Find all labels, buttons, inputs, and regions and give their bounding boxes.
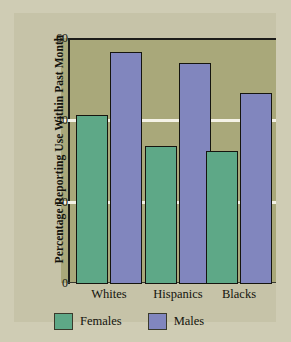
bar-whites-males xyxy=(110,52,142,284)
plot-frame-left xyxy=(68,38,70,284)
plot-frame-top xyxy=(68,38,276,40)
x-axis-label-blacks: Blacks xyxy=(206,287,272,302)
legend-entry-females: Females xyxy=(54,313,122,330)
legend-swatch-males-icon xyxy=(148,313,167,330)
chart-legend: Females Males xyxy=(54,313,220,330)
chart-page: 60 40 20 0 Percentage Reporting Use With… xyxy=(0,0,291,342)
bar-whites-females xyxy=(76,115,108,284)
legend-entry-males: Males xyxy=(148,313,205,330)
legend-label-males: Males xyxy=(174,314,205,329)
bar-blacks-females xyxy=(206,151,238,284)
bar-blacks-males xyxy=(240,93,272,284)
y-axis-title: Percentage Reporting Use Within Past Mon… xyxy=(53,34,65,264)
x-axis-label-whites: Whites xyxy=(76,287,142,302)
legend-swatch-females-icon xyxy=(54,313,73,330)
y-tick-label-0: 0 xyxy=(22,276,68,291)
legend-label-females: Females xyxy=(80,314,122,329)
chart-panel: 60 40 20 0 Percentage Reporting Use With… xyxy=(14,13,276,322)
x-axis-label-hispanics: Hispanics xyxy=(145,287,211,302)
bar-hispanics-females xyxy=(145,146,177,284)
